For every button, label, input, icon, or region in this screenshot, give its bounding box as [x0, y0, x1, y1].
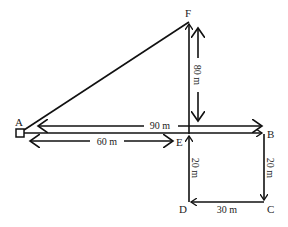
diagram-svg: 90 m 60 m 80 m 20 m 20 m 30 m A F E B C …: [0, 0, 288, 227]
point-label-f: F: [185, 7, 191, 19]
dimension-label-ae: 60 m: [97, 136, 118, 147]
segment-f-a: [24, 22, 189, 130]
dimension-label-ab: 90 m: [150, 120, 171, 131]
displacement-diagram: 90 m 60 m 80 m 20 m 20 m 30 m A F E B C …: [0, 0, 288, 227]
point-label-e: E: [176, 136, 183, 148]
start-marker-a: [16, 129, 24, 137]
point-label-b: B: [267, 128, 274, 140]
dimension-label-dc: 30 m: [217, 204, 238, 215]
dimension-label-bc: 20 m: [265, 158, 276, 179]
dimension-label-ed: 20 m: [190, 158, 201, 179]
point-label-c: C: [267, 203, 274, 215]
dimension-label-ef: 80 m: [192, 65, 203, 86]
point-label-d: D: [179, 203, 187, 215]
point-label-a: A: [15, 116, 23, 128]
